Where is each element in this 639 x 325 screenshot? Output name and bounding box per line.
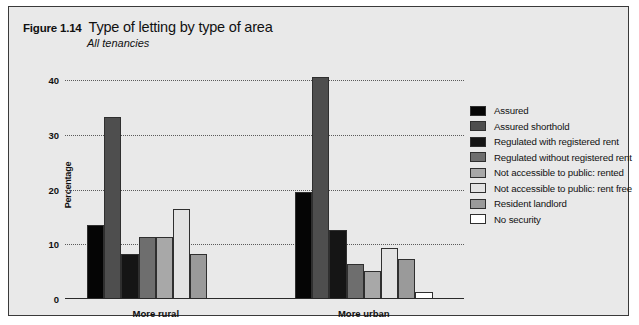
legend-swatch — [470, 137, 486, 147]
bar — [398, 259, 415, 299]
legend-swatch — [470, 214, 486, 224]
legend-item: Regulated without registered rent — [470, 150, 622, 166]
bar — [329, 230, 346, 299]
legend-item: Regulated with registered rent — [470, 134, 622, 150]
legend-item: Not accessible to public: rented — [470, 165, 622, 181]
legend-swatch — [470, 199, 486, 209]
legend-label: Resident landlord — [494, 198, 567, 209]
legend-item: Assured shorthold — [470, 119, 622, 135]
legend-label: Assured — [494, 105, 529, 116]
bar-groups: More ruralMore urban — [65, 80, 455, 299]
legend-swatch — [470, 152, 486, 162]
bar — [139, 237, 156, 299]
legend-label: Regulated without registered rent — [494, 152, 632, 163]
y-axis-tick: 40 — [48, 75, 59, 86]
legend-swatch — [470, 168, 486, 178]
bar — [156, 237, 173, 299]
legend-swatch — [470, 121, 486, 131]
x-axis-tick-label: More rural — [87, 308, 225, 319]
x-axis-tick-label: More urban — [295, 308, 433, 319]
bar — [104, 117, 121, 299]
y-axis-tick: 30 — [48, 129, 59, 140]
legend-item: Resident landlord — [470, 196, 622, 212]
bar — [364, 271, 381, 299]
figure-title: Type of letting by type of area — [89, 19, 273, 35]
bar — [121, 254, 138, 299]
bar — [312, 77, 329, 299]
bar — [347, 264, 364, 299]
legend: AssuredAssured shortholdRegulated with r… — [470, 103, 622, 227]
legend-swatch — [470, 183, 486, 193]
figure-panel: Figure 1.14 Type of letting by type of a… — [8, 6, 629, 316]
bar — [173, 209, 190, 299]
bar-group: More urban — [295, 80, 433, 299]
legend-label: Not accessible to public: rented — [494, 167, 624, 178]
bar-group: More rural — [87, 80, 225, 299]
y-axis-tick: 20 — [48, 184, 59, 195]
bar — [190, 254, 207, 299]
plot-area: Percentage 010203040 More ruralMore urba… — [65, 80, 455, 299]
legend-swatch — [470, 106, 486, 116]
legend-label: Not accessible to public: rent free — [494, 183, 632, 194]
figure-subtitle: All tenancies — [87, 37, 149, 49]
figure-heading: Figure 1.14 Type of letting by type of a… — [23, 19, 273, 35]
y-axis-tick: 0 — [54, 294, 59, 305]
legend-label: Regulated with registered rent — [494, 136, 619, 147]
bar — [295, 192, 312, 299]
bar — [87, 225, 104, 299]
legend-item: Assured — [470, 103, 622, 119]
bar — [381, 248, 398, 299]
legend-label: Assured shorthold — [494, 121, 570, 132]
legend-item: Not accessible to public: rent free — [470, 181, 622, 197]
legend-label: No security — [494, 214, 541, 225]
y-axis-tick: 10 — [48, 239, 59, 250]
figure-number: Figure 1.14 — [23, 22, 82, 34]
legend-item: No security — [470, 212, 622, 228]
x-axis-baseline — [65, 298, 464, 299]
